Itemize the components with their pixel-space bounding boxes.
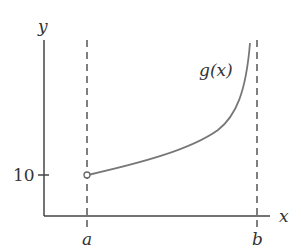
- curve-label-g: g(x): [199, 60, 233, 80]
- y-tick-label-10: 10: [13, 165, 35, 185]
- a-label: a: [82, 229, 92, 249]
- graph-svg: y x 10 a b g(x): [0, 0, 301, 250]
- b-label: b: [252, 229, 263, 249]
- y-axis-label: y: [37, 16, 48, 36]
- graph-canvas: y x 10 a b g(x): [0, 0, 301, 250]
- open-circle-marker: [84, 172, 90, 178]
- x-axis-label: x: [279, 206, 289, 226]
